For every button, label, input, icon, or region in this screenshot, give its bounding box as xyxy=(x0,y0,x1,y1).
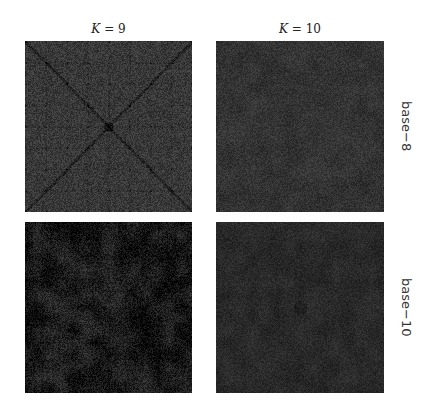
column-label-value: 9 xyxy=(118,22,126,36)
column-label-value: 10 xyxy=(306,22,321,36)
column-label-k9: K = 9 xyxy=(25,20,192,38)
heatmap-panel-base8-k9 xyxy=(25,41,192,212)
column-label-variable: K xyxy=(279,22,288,36)
row-label-base-10: base−10 xyxy=(392,222,414,393)
heatmap-panel-base10-k9 xyxy=(25,222,192,393)
heatmap-panel-base10-k10 xyxy=(216,222,384,393)
column-label-operator: = xyxy=(104,22,114,36)
heatmap-panel-base8-k10 xyxy=(216,41,384,212)
row-label-base-8: base−8 xyxy=(392,41,414,212)
column-label-k10: K = 10 xyxy=(216,20,384,38)
column-label-variable: K xyxy=(91,22,100,36)
column-label-operator: = xyxy=(292,22,302,36)
